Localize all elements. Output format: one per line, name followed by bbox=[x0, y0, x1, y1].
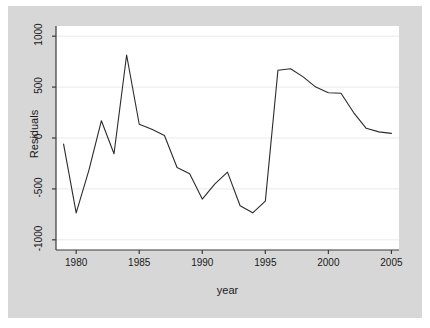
y-tick-label: 1000 bbox=[33, 15, 44, 55]
y-axis-title: Residuals bbox=[28, 94, 40, 174]
axis-ticks bbox=[52, 36, 391, 254]
chart-figure: 10005000-500-1000 1980198519901995200020… bbox=[0, 0, 430, 328]
chart-svg bbox=[0, 0, 430, 328]
x-tick-label: 1995 bbox=[245, 257, 285, 268]
x-tick-label: 1985 bbox=[119, 257, 159, 268]
x-axis-title: year bbox=[56, 284, 399, 296]
y-tick-label: -1000 bbox=[33, 218, 44, 258]
x-tick-label: 2005 bbox=[371, 257, 411, 268]
x-tick-label: 1990 bbox=[182, 257, 222, 268]
x-tick-label: 2000 bbox=[308, 257, 348, 268]
x-tick-label: 1980 bbox=[56, 257, 96, 268]
